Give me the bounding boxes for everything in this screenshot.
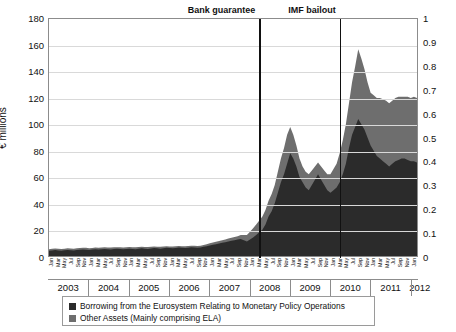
- x-axis-month-label: Jul: [311, 258, 316, 265]
- year-separator: [169, 280, 170, 296]
- gridline: [49, 72, 417, 73]
- y-axis-left-tick-label: 120: [28, 94, 44, 104]
- x-axis-month-label: Sep: [237, 258, 242, 267]
- x-axis-month-label: May: [344, 258, 349, 268]
- legend-swatch-borrowing: [69, 303, 76, 310]
- x-axis-month-label: Jan: [89, 258, 94, 266]
- x-axis-month-label: Nov: [324, 258, 329, 267]
- y-axis-title: € millions: [0, 83, 8, 173]
- gridline: [49, 125, 417, 126]
- x-axis-year-label: 2007: [209, 280, 249, 296]
- y-axis-left-tick-label: 160: [28, 41, 44, 51]
- x-axis-month-label: Jul: [351, 258, 356, 265]
- x-axis-month-label: Sep: [197, 258, 202, 267]
- y-axis-left-tick-label: 60: [33, 174, 44, 184]
- x-axis-month-label: Jan: [170, 258, 175, 266]
- x-axis-month-label: Mar: [257, 258, 262, 267]
- annotation-line: [340, 19, 342, 258]
- x-axis-year-label: 2008: [250, 280, 290, 296]
- year-separator: [250, 280, 251, 296]
- y-axis-left-tick-label: 80: [33, 147, 44, 157]
- x-axis-year-label: 2003: [48, 280, 88, 296]
- legend-entry: Borrowing from the Eurosystem Relating t…: [69, 300, 368, 312]
- x-axis-month-label: Sep: [76, 258, 81, 267]
- y-axis-right-tick-label: 0.4: [423, 158, 436, 168]
- x-axis-month-label: Mar: [176, 258, 181, 267]
- x-axis-month-label: Jul: [150, 258, 155, 265]
- year-separator: [88, 280, 89, 296]
- x-axis-month-label: Nov: [405, 258, 410, 267]
- x-axis-month-label: Jan: [291, 258, 296, 266]
- gridline: [49, 152, 417, 153]
- gridline: [49, 205, 417, 206]
- x-axis-month-label: Mar: [136, 258, 141, 267]
- year-separator: [290, 280, 291, 296]
- x-axis-month-label: Jan: [412, 258, 417, 266]
- y-axis-right-tick-label: 0.1: [423, 229, 436, 239]
- y-axis-right-tick-label: 0.5: [423, 134, 436, 144]
- x-axis-month-label: Nov: [203, 258, 208, 267]
- year-separator: [209, 280, 210, 296]
- x-axis-month-label: Jan: [331, 258, 336, 266]
- annotation-line: [259, 19, 261, 258]
- x-axis-month-label: May: [385, 258, 390, 268]
- gridline: [49, 46, 417, 47]
- x-axis-month-label: Nov: [284, 258, 289, 267]
- y-axis-left-tick-label: 0: [39, 253, 44, 263]
- x-axis-month-label: Jan: [250, 258, 255, 266]
- x-axis-month-label: Jul: [230, 258, 235, 265]
- x-axis-month-label: Sep: [277, 258, 282, 267]
- stacked-area-series: [49, 19, 417, 256]
- x-axis-month-label: May: [62, 258, 67, 268]
- x-axis-month-label: Jan: [49, 258, 54, 266]
- x-axis-month-label: May: [304, 258, 309, 268]
- x-axis-month-label: Sep: [156, 258, 161, 267]
- annotation-label: Bank guarantee: [188, 5, 256, 15]
- x-axis-month-label: Jan: [371, 258, 376, 266]
- x-axis-month-label: Mar: [56, 258, 61, 267]
- legend-label-other-assets: Other Assets (Mainly comprising ELA): [80, 314, 221, 322]
- gridline: [49, 178, 417, 179]
- area-borrowing: [49, 119, 417, 256]
- y-axis-right-tick-label: 0.3: [423, 182, 436, 192]
- x-axis-month-label: Jul: [271, 258, 276, 265]
- year-separator: [129, 280, 130, 296]
- x-axis-month-label: Mar: [217, 258, 222, 267]
- y-axis-left-tick-label: 180: [28, 14, 44, 24]
- y-axis-right-tick-label: 1: [423, 14, 428, 24]
- y-axis-left-tick-label: 100: [28, 120, 44, 130]
- year-separator: [370, 280, 371, 296]
- year-separator: [330, 280, 331, 296]
- x-axis-month-ticks: JanMarMayJulSepNovJanMarMayJulSepNovJanM…: [48, 258, 418, 280]
- y-axis-left-tick-label: 140: [28, 67, 44, 77]
- year-separator: [411, 280, 412, 296]
- x-axis-month-label: Jan: [129, 258, 134, 266]
- legend-entry: Other Assets (Mainly comprising ELA): [69, 312, 368, 324]
- x-axis-month-label: Mar: [96, 258, 101, 267]
- y-axis-right-tick-label: 0.8: [423, 62, 436, 72]
- y-axis-right-tick-label: 0.9: [423, 38, 436, 48]
- x-axis-month-label: May: [264, 258, 269, 268]
- y-axis-right-tick-label: 0.6: [423, 110, 436, 120]
- y-axis-right-tick-label: 0: [423, 253, 428, 263]
- x-axis-month-label: Jul: [109, 258, 114, 265]
- x-axis-month-label: Sep: [398, 258, 403, 267]
- x-axis-month-label: Sep: [116, 258, 121, 267]
- x-axis-month-label: Nov: [82, 258, 87, 267]
- x-axis-month-label: Jul: [391, 258, 396, 265]
- x-axis-year-label: 2005: [129, 280, 169, 296]
- x-axis-year-label: 2009: [290, 280, 330, 296]
- chart-legend: Borrowing from the Eurosystem Relating t…: [62, 296, 375, 326]
- x-axis-month-label: Nov: [163, 258, 168, 267]
- x-axis-month-label: Mar: [378, 258, 383, 267]
- x-axis-month-label: Nov: [365, 258, 370, 267]
- x-axis-month-label: May: [103, 258, 108, 268]
- annotation-label: IMF bailout: [288, 5, 336, 15]
- x-axis-month-label: Nov: [244, 258, 249, 267]
- x-axis-month-label: Sep: [358, 258, 363, 267]
- chart-plot-area: 02040608010012014016018000.10.20.30.40.5…: [48, 18, 418, 257]
- x-axis-month-label: Mar: [297, 258, 302, 267]
- x-axis-month-label: May: [183, 258, 188, 268]
- x-axis-month-label: Mar: [338, 258, 343, 267]
- x-axis-year-label: 2010: [330, 280, 370, 296]
